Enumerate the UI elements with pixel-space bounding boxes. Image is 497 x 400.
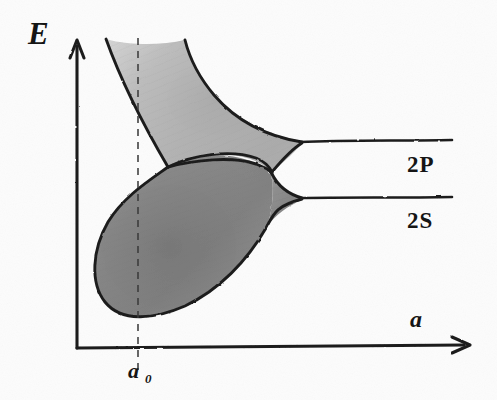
y-axis-label: E	[27, 16, 49, 51]
energy-band-diagram: E a a 0 2P 2S	[0, 0, 497, 400]
equilibrium-tick-label-sub: 0	[145, 371, 152, 386]
equilibrium-tick-label-main: a	[128, 358, 139, 383]
x-axis-label: a	[410, 306, 422, 332]
level-label-2p: 2P	[407, 152, 435, 177]
level-line-2s	[300, 197, 452, 198]
diagram-canvas: E a a 0 2P 2S	[0, 0, 497, 400]
level-label-2s: 2S	[407, 208, 433, 233]
